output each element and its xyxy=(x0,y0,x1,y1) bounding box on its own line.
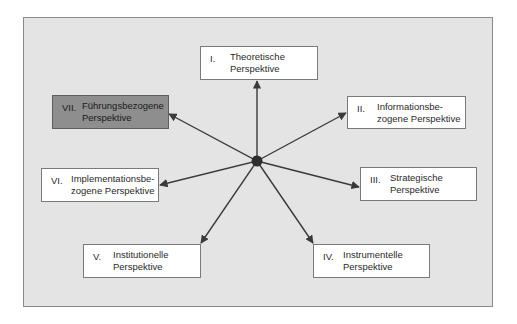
node-strategische-perspektive: III. Strategische Perspektive xyxy=(360,167,477,201)
node-number: II. xyxy=(357,103,377,115)
arrow-to-II xyxy=(257,113,346,161)
node-implementationsbezogene-perspektive: VI. Implementationsbe- zogene Perspektiv… xyxy=(41,168,159,202)
node-label: Implementationsbe- zogene Perspektive xyxy=(71,173,154,197)
node-number: VI. xyxy=(51,175,71,187)
node-number: I. xyxy=(210,53,230,65)
node-label: Informationsbe- zogene Perspektive xyxy=(377,101,460,125)
node-number: V. xyxy=(93,251,113,263)
node-label: Strategische Perspektive xyxy=(390,172,443,196)
node-label: Institutionelle Perspektive xyxy=(113,249,168,273)
node-label: Führungsbezogene Perspektive xyxy=(82,100,164,124)
node-instrumentelle-perspektive: IV. Instrumentelle Perspektive xyxy=(313,244,430,278)
hub-node xyxy=(252,156,263,167)
node-informationsbezogene-perspektive: II. Informationsbe- zogene Perspektive xyxy=(347,96,466,129)
node-number: III. xyxy=(370,174,390,186)
node-label: Instrumentelle Perspektive xyxy=(343,249,403,273)
node-number: VII. xyxy=(62,102,82,114)
node-number: IV. xyxy=(323,251,343,263)
arrow-to-VII xyxy=(169,114,257,161)
perspectives-diagram: I. Theoretische Perspektive II. Informat… xyxy=(0,0,517,324)
node-label: Theoretische Perspektive xyxy=(230,51,285,75)
node-theoretische-perspektive: I. Theoretische Perspektive xyxy=(200,46,318,80)
node-institutionelle-perspektive: V. Institutionelle Perspektive xyxy=(83,244,201,278)
node-fuehrungsbezogene-perspektive: VII. Führungsbezogene Perspektive xyxy=(52,95,169,129)
